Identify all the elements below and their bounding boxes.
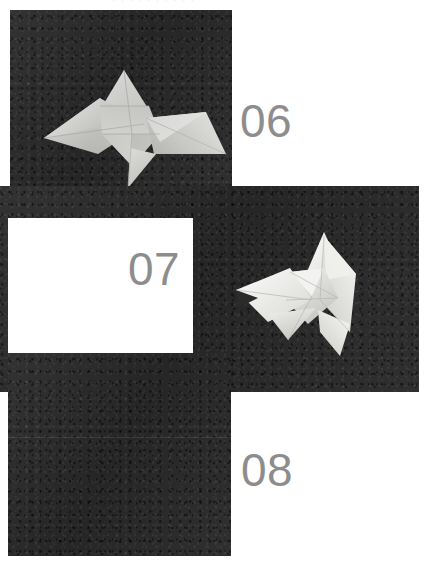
instruction-sheet: · · · · · · · · · · (0, 0, 427, 569)
photo-seam-line-lower (8, 437, 231, 438)
step-number-08: 08 (241, 447, 293, 493)
step-number-06: 06 (240, 98, 292, 144)
step-number-07: 07 (128, 246, 180, 292)
photo-seam-line-right (231, 424, 419, 425)
photo-panel-step-06 (10, 10, 232, 186)
origami-model-step-06 (36, 62, 232, 186)
cropped-header-text: · · · · · · · · · · (112, 0, 232, 3)
photo-panel-step-08 (8, 353, 231, 556)
